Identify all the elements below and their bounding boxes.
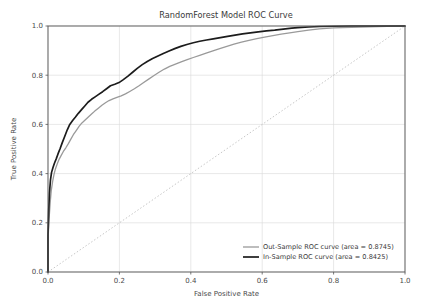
y-tick-label: 0.2 <box>32 219 43 227</box>
y-tick-label: 0.8 <box>32 72 43 80</box>
x-tick-label: 0.8 <box>328 277 339 285</box>
legend-label-1: In-Sample ROC curve (area = 0.8425) <box>263 253 388 261</box>
x-tick-label: 0.4 <box>185 277 197 285</box>
chart-title: RandomForest Model ROC Curve <box>159 10 292 20</box>
roc-chart-figure: RandomForest Model ROC Curve 0.00.20.40.… <box>0 0 424 303</box>
roc-chart-canvas: RandomForest Model ROC Curve 0.00.20.40.… <box>0 0 424 303</box>
y-tick-label: 0.6 <box>32 121 44 129</box>
x-tick-label: 0.0 <box>42 277 53 285</box>
y-tick-label: 0.0 <box>32 268 43 276</box>
y-tick-label: 1.0 <box>32 22 43 30</box>
x-axis-label: False Positive Rate <box>194 290 259 298</box>
x-tick-label: 0.6 <box>257 277 269 285</box>
y-axis-label: True Positive Rate <box>10 118 18 181</box>
y-tick-label: 0.4 <box>32 170 44 178</box>
x-tick-label: 0.2 <box>114 277 125 285</box>
x-tick-label: 1.0 <box>399 277 410 285</box>
legend-label-0: Out-Sample ROC curve (area = 0.8745) <box>263 243 394 251</box>
